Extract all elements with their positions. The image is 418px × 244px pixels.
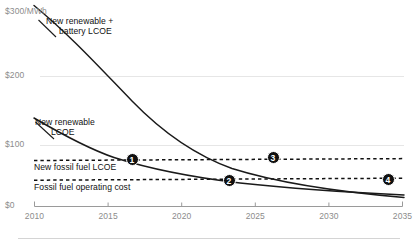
y-axis-label-100: $100 bbox=[5, 140, 24, 150]
chart-container: $300/MWh $200 $100 $0 2010 2015 2020 202… bbox=[0, 0, 418, 244]
crossing-marker-3[interactable]: 3 bbox=[267, 151, 280, 164]
crossing-marker-4[interactable]: 4 bbox=[382, 173, 395, 186]
series-line-new-fossil-fuel-lcoe bbox=[34, 159, 404, 161]
crossing-marker-1[interactable]: 1 bbox=[126, 153, 139, 166]
x-axis-label-2035: 2035 bbox=[385, 212, 418, 222]
y-axis-label-200: $200 bbox=[5, 71, 24, 81]
y-axis-label-300: $300/MWh bbox=[5, 7, 47, 17]
crossing-marker-2[interactable]: 2 bbox=[223, 174, 236, 187]
x-axis-label-2010: 2010 bbox=[17, 212, 53, 222]
x-axis-label-2025: 2025 bbox=[237, 212, 273, 222]
x-axis-label-2020: 2020 bbox=[164, 212, 200, 222]
x-axis-label-2030: 2030 bbox=[311, 212, 347, 222]
series-label-new-renewable-battery-lcoe-line2: battery LCOE bbox=[59, 27, 112, 37]
series-label-new-fossil-fuel-lcoe: New fossil fuel LCOE bbox=[34, 163, 116, 173]
series-label-new-renewable-lcoe-line2: LCOE bbox=[51, 128, 75, 138]
x-axis-label-2015: 2015 bbox=[90, 212, 126, 222]
y-axis-label-0: $0 bbox=[5, 201, 15, 211]
series-label-fossil-fuel-operating-cost: Fossil fuel operating cost bbox=[34, 183, 130, 193]
